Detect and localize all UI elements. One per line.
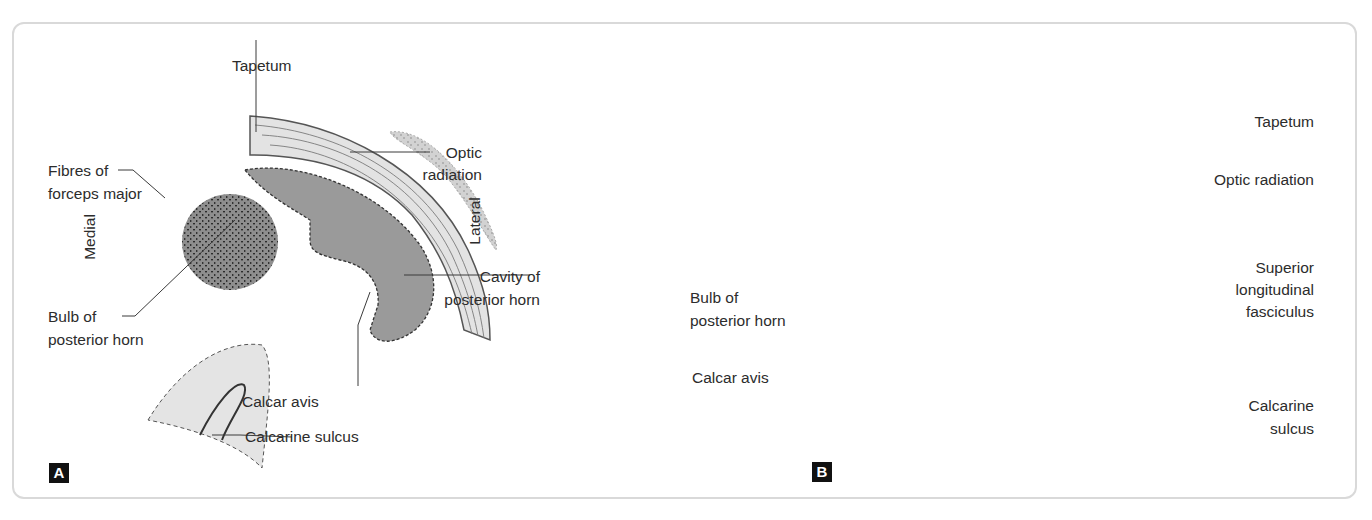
panel-a-drawing: [118, 40, 530, 468]
orientation-medial: Medial: [81, 214, 99, 260]
label-b-slf-line2: longitudinal: [1180, 280, 1314, 299]
panel-tag-b: B: [812, 462, 832, 482]
label-a-calcar-avis: Calcar avis: [242, 392, 319, 411]
label-b-bulb-line2: posterior horn: [690, 311, 786, 330]
orientation-lateral: Lateral: [466, 197, 484, 244]
label-b-slf-line3: fasciculus: [1180, 302, 1314, 321]
label-a-optic-radiation-line1: Optic: [410, 143, 482, 162]
label-a-fibres-line1: Fibres of: [48, 161, 108, 180]
label-a-bulb-line2: posterior horn: [48, 330, 144, 349]
label-a-cavity-line1: Cavity of: [390, 267, 540, 286]
label-b-optic-radiation: Optic radiation: [1124, 170, 1314, 189]
label-b-calcar-avis: Calcar avis: [692, 368, 769, 387]
label-a-cavity-line2: posterior horn: [370, 290, 540, 309]
label-a-optic-radiation-line2: radiation: [400, 165, 482, 184]
bulb-forceps-major: [182, 194, 278, 290]
label-b-bulb-line1: Bulb of: [690, 288, 738, 307]
label-a-bulb-line1: Bulb of: [48, 307, 96, 326]
panel-tag-a: A: [49, 463, 69, 483]
label-b-tapetum: Tapetum: [1180, 112, 1314, 131]
label-b-calcarine-line1: Calcarine: [1180, 396, 1314, 415]
label-b-calcarine-line2: sulcus: [1180, 419, 1314, 438]
label-b-slf-line1: Superior: [1180, 258, 1314, 277]
label-a-fibres-line2: forceps major: [48, 184, 142, 203]
label-a-calcarine-sulcus: Calcarine sulcus: [245, 427, 359, 446]
figure-artwork: [0, 0, 1372, 520]
label-a-tapetum: Tapetum: [232, 56, 291, 75]
